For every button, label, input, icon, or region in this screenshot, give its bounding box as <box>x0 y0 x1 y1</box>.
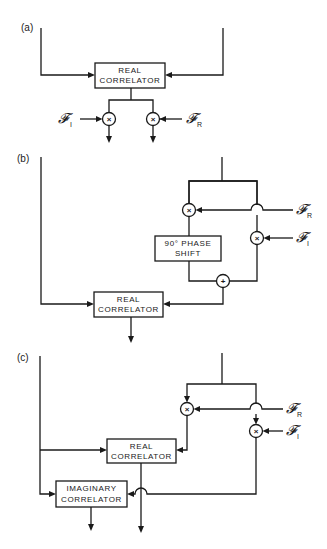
input-line-left <box>40 356 52 494</box>
mult-to-adder-line <box>230 245 258 282</box>
multiplier-right: × <box>251 232 264 245</box>
svg-text:REAL: REAL <box>118 66 141 75</box>
arrow-icon <box>184 396 190 403</box>
real-correlator-box: REAL CORRELATOR <box>94 292 163 317</box>
fi-label: 𝓕 I <box>296 230 311 247</box>
output-branch <box>109 100 153 112</box>
arrow-icon <box>160 116 167 122</box>
split-branch <box>187 384 256 420</box>
input-line-left <box>41 157 90 304</box>
arrow-icon <box>150 136 156 143</box>
arrow-icon <box>88 524 94 531</box>
fi-label: 𝓕 I <box>58 111 73 128</box>
multiplier-left: × <box>103 113 116 126</box>
svg-text:R: R <box>197 121 202 128</box>
svg-text:REAL: REAL <box>130 442 153 451</box>
input-line-left <box>41 28 91 75</box>
panel-c: (c) × 𝓕 R × 𝓕 I <box>17 352 302 533</box>
fr-label: 𝓕 R <box>296 202 312 219</box>
svg-text:CORRELATOR: CORRELATOR <box>98 305 159 314</box>
svg-text:×: × <box>187 206 192 215</box>
fr-label: 𝓕 R <box>286 401 302 418</box>
mult-to-real-line <box>180 416 187 451</box>
panel-b: (b) × 𝓕 R × 𝓕 I <box>17 153 312 343</box>
svg-text:I: I <box>297 433 299 440</box>
svg-text:I: I <box>70 121 72 128</box>
panel-a-label: (a) <box>21 22 33 33</box>
panel-b-label: (b) <box>17 153 29 164</box>
arrow-icon <box>264 235 271 241</box>
arrow-icon <box>127 491 134 497</box>
multiplier-left: × <box>181 403 194 416</box>
arrow-icon <box>128 336 134 343</box>
phase-shift-box: 90° PHASE SHIFT <box>155 236 221 261</box>
svg-text:×: × <box>185 405 190 414</box>
arrow-icon <box>253 418 259 425</box>
svg-text:R: R <box>297 411 302 418</box>
arrow-icon <box>87 301 94 307</box>
arrow-icon <box>194 406 201 412</box>
fr-label: 𝓕 R <box>186 111 202 128</box>
split-branch <box>189 181 257 205</box>
adder-to-correlator-line <box>167 288 223 305</box>
arrow-icon <box>100 447 107 453</box>
svg-text:×: × <box>254 427 259 436</box>
multiplier-right: × <box>147 113 160 126</box>
arrow-icon <box>96 116 103 122</box>
multiplier-top: × <box>183 204 196 217</box>
svg-text:×: × <box>107 115 112 124</box>
imaginary-correlator-box: IMAGINARY CORRELATOR <box>56 481 127 507</box>
svg-text:×: × <box>255 234 260 243</box>
arrow-icon <box>49 491 56 497</box>
svg-text:I: I <box>307 240 309 247</box>
svg-text:R: R <box>307 212 312 219</box>
fr-input-line <box>198 204 293 210</box>
arrow-icon <box>163 301 170 307</box>
arrow-icon <box>263 428 270 434</box>
arrow-icon <box>196 207 203 213</box>
panel-a: (a) REAL CORRELATOR × × 𝓕 I <box>21 22 223 143</box>
svg-text:90° PHASE: 90° PHASE <box>165 239 212 248</box>
arrow-icon <box>176 447 183 453</box>
fr-input-line <box>196 403 283 409</box>
arrow-icon <box>138 526 144 533</box>
arrow-icon <box>165 72 172 78</box>
panel-c-label: (c) <box>17 352 29 363</box>
multiplier-right: × <box>250 425 263 438</box>
svg-text:CORRELATOR: CORRELATOR <box>111 452 172 461</box>
arrow-icon <box>88 72 95 78</box>
svg-text:×: × <box>151 115 156 124</box>
fi-label: 𝓕 I <box>286 423 301 440</box>
phase-to-adder-line <box>189 261 217 281</box>
svg-text:CORRELATOR: CORRELATOR <box>100 76 161 85</box>
svg-text:REAL: REAL <box>117 295 140 304</box>
real-correlator-box: REAL CORRELATOR <box>95 63 165 88</box>
input-line-right <box>169 28 223 75</box>
real-correlator-box: REAL CORRELATOR <box>107 439 176 463</box>
svg-text:CORRELATOR: CORRELATOR <box>61 495 122 504</box>
svg-text:IMAGINARY: IMAGINARY <box>66 484 116 493</box>
svg-text:SHIFT: SHIFT <box>175 249 201 258</box>
arrow-icon <box>106 136 112 143</box>
svg-text:+: + <box>221 277 226 286</box>
correlator-block-diagrams: (a) REAL CORRELATOR × × 𝓕 I <box>0 0 327 549</box>
adder: + <box>217 275 230 288</box>
